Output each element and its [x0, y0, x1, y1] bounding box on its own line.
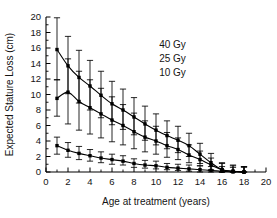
y-tick-label: 4 [36, 135, 41, 146]
x-tick-label: 10 [151, 176, 162, 187]
data-point-marker [143, 135, 146, 138]
legend-label-25-gy: 25 Gy [159, 53, 186, 64]
data-point-marker [231, 170, 234, 173]
data-point-marker [198, 168, 201, 171]
data-point-marker [154, 139, 157, 142]
y-tick-label: 10 [30, 89, 41, 100]
data-point-marker [55, 48, 58, 51]
y-tick-label: 0 [36, 166, 41, 177]
x-tick-label: 8 [131, 176, 136, 187]
y-tick-label: 16 [30, 42, 41, 53]
data-point-marker [209, 169, 212, 172]
data-point-marker [110, 158, 113, 161]
x-tick-label: 18 [239, 176, 250, 187]
data-point-marker [154, 164, 157, 167]
chart-figure: 0246810121416182002468101214161820Age at… [0, 0, 277, 218]
data-point-marker [143, 163, 146, 166]
data-point-marker [187, 153, 190, 156]
data-point-marker [88, 106, 91, 109]
data-point-marker [176, 148, 179, 151]
data-point-marker [66, 90, 69, 93]
x-tick-label: 6 [109, 176, 114, 187]
data-point-marker [198, 158, 201, 161]
series-40-gy [54, 18, 247, 174]
data-point-marker [88, 154, 91, 157]
series-curve [57, 50, 244, 172]
data-point-marker [99, 112, 102, 115]
y-tick-label: 12 [30, 73, 41, 84]
y-tick-label: 14 [30, 58, 41, 69]
x-tick-label: 2 [65, 176, 70, 187]
x-tick-label: 0 [43, 176, 48, 187]
data-point-marker [66, 149, 69, 152]
x-tick-label: 12 [173, 176, 184, 187]
y-axis-title: Expected Stature Loss (cm) [4, 33, 15, 156]
data-point-marker [132, 162, 135, 165]
expected-stature-loss-chart: 0246810121416182002468101214161820Age at… [0, 0, 277, 218]
y-tick-label: 6 [36, 120, 41, 131]
data-point-marker [121, 124, 124, 127]
x-tick-label: 14 [195, 176, 206, 187]
data-point-marker [176, 166, 179, 169]
y-tick-label: 20 [30, 11, 41, 22]
data-point-marker [132, 130, 135, 133]
x-axis-title: Age at treatment (years) [102, 196, 210, 207]
data-point-marker [165, 166, 168, 169]
series-25-gy [54, 59, 247, 174]
series-curve [57, 92, 244, 172]
data-point-marker [99, 156, 102, 159]
legend-label-40-gy: 40 Gy [159, 39, 186, 50]
data-point-marker [242, 170, 245, 173]
data-point-marker [121, 159, 124, 162]
data-point-marker [165, 144, 168, 147]
data-point-marker [55, 144, 58, 147]
series-curve [57, 146, 244, 172]
data-point-marker [55, 97, 58, 100]
data-point-marker [77, 100, 80, 103]
y-tick-label: 8 [36, 104, 41, 115]
data-point-marker [77, 152, 80, 155]
y-tick-label: 18 [30, 27, 41, 38]
data-point-marker [220, 170, 223, 173]
x-tick-label: 4 [87, 176, 92, 187]
x-tick-label: 16 [217, 176, 228, 187]
data-point-marker [110, 118, 113, 121]
legend-label-10-gy: 10 Gy [159, 67, 186, 78]
x-tick-label: 20 [261, 176, 272, 187]
data-point-marker [187, 167, 190, 170]
y-tick-label: 2 [36, 151, 41, 162]
